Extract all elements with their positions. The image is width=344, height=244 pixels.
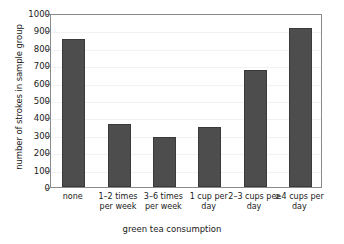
y-tick-label: 100 bbox=[0, 167, 50, 175]
y-tick-label: 1000 bbox=[0, 10, 50, 18]
bar bbox=[244, 70, 267, 187]
x-tick-label: none bbox=[47, 192, 98, 202]
y-tick-label: 500 bbox=[0, 97, 50, 105]
y-tick-label: 200 bbox=[0, 149, 50, 157]
gridline bbox=[51, 154, 321, 155]
y-tick-label: 600 bbox=[0, 80, 50, 88]
y-tick-mark bbox=[46, 188, 50, 189]
y-tick-label: 700 bbox=[0, 62, 50, 70]
gridline bbox=[51, 172, 321, 173]
y-tick-label: 800 bbox=[0, 45, 50, 53]
bar bbox=[62, 39, 85, 187]
gridline bbox=[51, 119, 321, 120]
y-tick-label: 300 bbox=[0, 132, 50, 140]
gridline bbox=[51, 102, 321, 103]
bar bbox=[198, 127, 221, 187]
bar bbox=[108, 124, 131, 188]
gridline bbox=[51, 85, 321, 86]
gridline bbox=[51, 50, 321, 51]
y-tick-label: 0 bbox=[0, 184, 50, 192]
x-tick-label: ≥4 cups per day bbox=[274, 192, 325, 211]
gridline bbox=[51, 67, 321, 68]
x-axis-title: green tea consumption bbox=[0, 224, 344, 234]
plot-area bbox=[50, 14, 322, 188]
y-tick-label: 400 bbox=[0, 114, 50, 122]
x-tick-label: 3–6 times per week bbox=[138, 192, 189, 211]
x-tick-label: 1–2 times per week bbox=[92, 192, 143, 211]
bar bbox=[153, 137, 176, 187]
x-tick-label: 1 cup per day bbox=[183, 192, 234, 211]
x-tick-label: 2–3 cups per day bbox=[228, 192, 279, 211]
gridline bbox=[51, 32, 321, 33]
y-tick-label: 900 bbox=[0, 27, 50, 35]
gridline bbox=[51, 137, 321, 138]
bar-chart-figure: number of strokes in sample group 010020… bbox=[0, 0, 344, 244]
bar bbox=[289, 28, 312, 187]
